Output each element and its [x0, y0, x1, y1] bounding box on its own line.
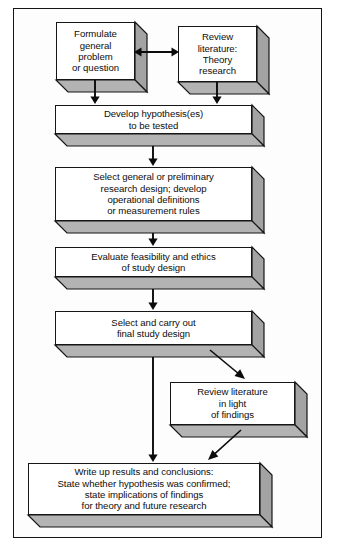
- node-face: Review literature: Theory research: [178, 26, 257, 82]
- node-label: Write up results and conclusions: State …: [54, 466, 235, 512]
- node-face: Select general or preliminary research d…: [55, 167, 252, 221]
- node-face: Develop hypothesis(es) to be tested: [55, 105, 252, 134]
- node-face: Review literature in light of findings: [170, 382, 295, 425]
- node-label: Review literature in light of findings: [193, 386, 272, 420]
- flow-node-review-findings: Review literature in light of findings: [170, 382, 295, 425]
- flow-node-write-up: Write up results and conclusions: State …: [28, 463, 260, 515]
- flow-node-develop-hypothesis: Develop hypothesis(es) to be tested: [55, 105, 252, 134]
- node-face: Select and carry out final study design: [55, 311, 252, 345]
- node-face: Formulate general problem or question: [56, 22, 135, 80]
- node-face: Write up results and conclusions: State …: [28, 463, 260, 515]
- flowchart-stage: Formulate general problem or questionRev…: [0, 0, 337, 547]
- node-label: Develop hypothesis(es) to be tested: [100, 108, 207, 131]
- node-label: Formulate general problem or question: [68, 28, 123, 74]
- flow-node-carry-out-design: Select and carry out final study design: [55, 311, 252, 345]
- node-face: Evaluate feasibility and ethics of study…: [55, 247, 252, 277]
- node-label: Select and carry out final study design: [107, 317, 199, 340]
- node-label: Review literature: Theory research: [194, 31, 241, 77]
- flow-node-review-theory: Review literature: Theory research: [178, 26, 257, 82]
- flow-node-select-design: Select general or preliminary research d…: [55, 167, 252, 221]
- flow-node-evaluate-feasibility: Evaluate feasibility and ethics of study…: [55, 247, 252, 277]
- flow-node-formulate: Formulate general problem or question: [56, 22, 135, 80]
- node-label: Select general or preliminary research d…: [89, 171, 218, 217]
- node-label: Evaluate feasibility and ethics of study…: [87, 251, 219, 274]
